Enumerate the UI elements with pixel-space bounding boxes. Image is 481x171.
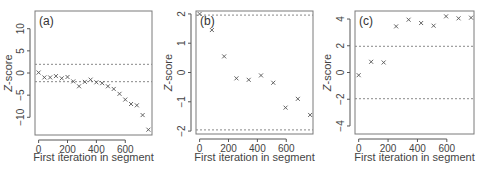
y-axis-label: Z-score <box>321 54 333 92</box>
y-tick-label: −4 <box>335 120 346 132</box>
data-point <box>382 60 386 64</box>
figure: 0200400600−10−50510First iteration in se… <box>0 0 481 171</box>
data-point <box>259 73 263 77</box>
panel-b: 0200400600−2−1012First iteration in segm… <box>162 11 315 163</box>
y-tick-label: 2 <box>335 43 346 49</box>
y-tick-label: −2 <box>335 93 346 105</box>
data-point <box>54 74 58 78</box>
data-point <box>135 103 139 107</box>
data-point <box>284 106 288 110</box>
data-point <box>469 16 473 20</box>
data-point <box>118 92 122 96</box>
y-tick-label: −2 <box>176 125 187 137</box>
x-axis-label: First iteration in segment <box>33 151 153 163</box>
y-tick-label: 4 <box>335 16 346 22</box>
data-point <box>419 21 423 25</box>
data-point <box>271 81 275 85</box>
data-point <box>457 16 461 20</box>
y-tick-label: 10 <box>15 23 26 35</box>
data-point <box>89 78 93 82</box>
panel-label: (a) <box>39 14 54 28</box>
data-point <box>48 75 52 79</box>
y-tick-label: −1 <box>176 96 187 108</box>
data-point <box>112 87 116 91</box>
data-point <box>66 75 70 79</box>
y-tick-label: 1 <box>176 40 187 46</box>
data-point <box>210 28 214 32</box>
data-point <box>60 76 64 80</box>
data-point <box>247 78 251 82</box>
x-axis-label: First iteration in segment <box>354 151 474 163</box>
y-tick-label: −10 <box>15 108 26 125</box>
x-axis-label: First iteration in segment <box>194 151 314 163</box>
y-tick-label: 0 <box>176 69 187 75</box>
data-point <box>432 24 436 28</box>
data-point <box>444 14 448 18</box>
data-point <box>94 80 98 84</box>
plot-frame <box>355 11 474 134</box>
data-point <box>394 24 398 28</box>
data-point <box>141 113 145 117</box>
plot-frame <box>196 11 313 134</box>
panel-c: 0200400600−4−2024First iteration in segm… <box>321 11 475 163</box>
y-axis-label: Z-score <box>2 54 14 92</box>
data-point <box>407 18 411 22</box>
data-point <box>100 81 104 85</box>
panel-label: (c) <box>359 14 373 28</box>
data-point <box>123 98 127 102</box>
panel-a: 0200400600−10−50510First iteration in se… <box>2 11 154 163</box>
y-tick-label: 5 <box>15 48 26 54</box>
data-point <box>146 128 150 132</box>
data-point <box>77 84 81 88</box>
data-point <box>357 73 361 77</box>
data-point <box>37 71 41 75</box>
data-point <box>369 60 373 64</box>
plot-frame <box>35 11 152 135</box>
panel-label: (b) <box>200 14 215 28</box>
data-point <box>129 102 133 106</box>
data-point <box>106 84 110 88</box>
data-point <box>296 97 300 101</box>
y-tick-label: 0 <box>335 69 346 75</box>
y-axis-label: Z-score <box>162 54 174 92</box>
data-point <box>308 113 312 117</box>
y-tick-label: 0 <box>15 70 26 76</box>
y-tick-label: 2 <box>176 11 187 17</box>
data-point <box>222 54 226 58</box>
data-point <box>42 75 46 79</box>
y-tick-label: −5 <box>15 89 26 101</box>
data-point <box>234 76 238 80</box>
